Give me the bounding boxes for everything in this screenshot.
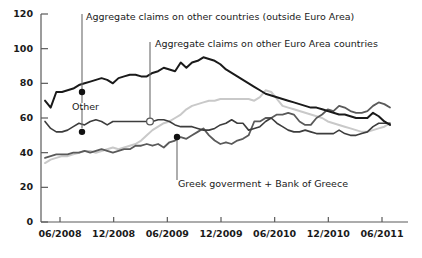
x-axis-label-12-2009: 12/2009 — [193, 228, 249, 239]
x-axis-label-12-2010: 12/2010 — [300, 228, 356, 239]
y-axis-label-20: 20 — [5, 181, 33, 192]
annotation-outside-euro-area: Aggregate claims on other countries (out… — [86, 11, 354, 22]
y-axis-label-40: 40 — [5, 147, 33, 158]
x-axis-label-06-2008: 06/2008 — [32, 228, 88, 239]
y-axis-label-60: 60 — [5, 112, 33, 123]
x-axis-label-06-2011: 06/2011 — [354, 228, 410, 239]
y-axis-label-80: 80 — [5, 77, 33, 88]
y-axis-label-120: 120 — [5, 8, 33, 19]
y-axis-label-100: 100 — [5, 43, 33, 54]
annotation-other: Other — [72, 101, 99, 112]
x-axis-label-12-2008: 12/2008 — [86, 228, 142, 239]
y-axis-label-0: 0 — [5, 216, 33, 227]
line-chart: 020406080100120 06/200812/200806/200912/… — [0, 0, 422, 258]
annotation-markers — [79, 89, 180, 140]
annotation-other-euro-area: Aggregate claims on other Euro Area coun… — [155, 38, 378, 49]
x-axis-label-06-2010: 06/2010 — [247, 228, 303, 239]
x-axis-label-06-2009: 06/2009 — [139, 228, 195, 239]
annotation-greek-government: Greek goverment + Bank of Greece — [178, 178, 348, 189]
